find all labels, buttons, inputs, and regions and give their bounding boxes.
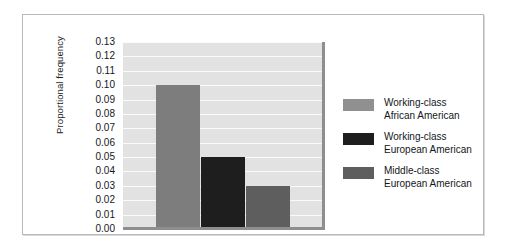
y-tick-label: 0.09 [79, 94, 115, 106]
legend-label-line1: Middle-class [384, 165, 472, 178]
y-tick-label: 0.05 [79, 151, 115, 163]
bar [201, 157, 245, 229]
legend-label-line1: Working-class [384, 131, 472, 144]
y-tick-label: 0.02 [79, 194, 115, 206]
legend-label: Middle-classEuropean American [384, 165, 472, 190]
y-tick-label: 0.04 [79, 165, 115, 177]
y-axis-tick-labels: 0.130.120.110.100.090.080.070.060.050.04… [79, 36, 115, 229]
y-tick-label: 0.00 [79, 223, 115, 235]
y-tick-label: 0.10 [79, 79, 115, 91]
legend-swatch [343, 167, 374, 179]
legend-label: Working-classAfrican American [384, 97, 460, 122]
legend-label-line2: European American [384, 178, 472, 191]
legend-item: Working-classAfrican American [343, 97, 493, 122]
right-axis-line [322, 42, 325, 228]
y-tick-label: 0.08 [79, 108, 115, 120]
legend-label-line1: Working-class [384, 97, 460, 110]
legend-label-line2: European American [384, 144, 472, 157]
legend-label-line2: African American [384, 110, 460, 123]
legend: Working-classAfrican AmericanWorking-cla… [343, 97, 493, 199]
x-axis-line [123, 227, 325, 230]
y-tick-label: 0.06 [79, 137, 115, 149]
y-tick-label: 0.03 [79, 180, 115, 192]
y-tick-label: 0.07 [79, 122, 115, 134]
y-tick-label: 0.13 [79, 36, 115, 48]
legend-item: Working-classEuropean American [343, 131, 493, 156]
y-tick-label: 0.11 [79, 65, 115, 77]
legend-item: Middle-classEuropean American [343, 165, 493, 190]
bar-series [123, 42, 323, 229]
y-tick-label: 0.01 [79, 209, 115, 221]
legend-swatch [343, 99, 374, 111]
plot-area [123, 42, 323, 229]
figure-frame: Proportional frequency 0.130.120.110.100… [22, 14, 484, 235]
legend-label: Working-classEuropean American [384, 131, 472, 156]
bar [156, 85, 200, 229]
y-axis-title: Proportional frequency [54, 25, 70, 145]
legend-swatch [343, 133, 374, 145]
bar [246, 186, 290, 229]
y-tick-label: 0.12 [79, 50, 115, 62]
